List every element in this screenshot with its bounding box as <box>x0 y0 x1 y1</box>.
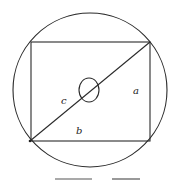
center-ellipse <box>79 78 99 102</box>
label-b: b <box>76 125 82 136</box>
diagonal-line <box>30 42 150 141</box>
corner-point <box>29 140 32 143</box>
label-a: a <box>133 85 139 96</box>
diagram-canvas: a b c <box>0 0 176 180</box>
label-c: c <box>61 95 67 106</box>
circumscribed-circle <box>13 13 167 167</box>
